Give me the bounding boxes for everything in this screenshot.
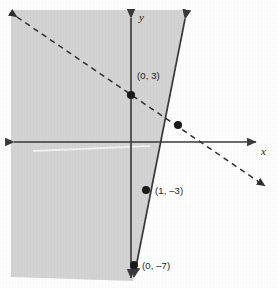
label-point-0-neg7: (0, –7)	[142, 261, 170, 271]
y-axis-label: y	[139, 12, 144, 23]
label-point-0-3: (0, 3)	[137, 71, 160, 81]
math-figure: (0, 3) (1, –3) (0, –7) y x	[0, 0, 278, 288]
label-point-1-neg3: (1, –3)	[155, 186, 183, 196]
x-axis-label: x	[261, 146, 266, 157]
point-0-3	[127, 91, 135, 99]
point-on-dashed-line	[174, 121, 182, 129]
coordinate-plane-svg	[0, 0, 278, 288]
point-0-neg7	[130, 261, 138, 269]
point-1-neg3	[142, 186, 150, 194]
